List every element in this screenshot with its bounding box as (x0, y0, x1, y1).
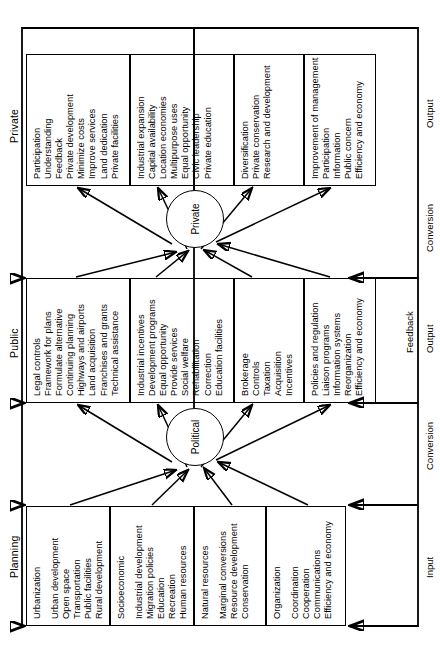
diagram-stage: Planning Public Private Urbanization Urb… (0, 0, 440, 648)
node-private: Private (166, 190, 224, 248)
node-label: Political (190, 420, 201, 454)
node-political: Political (166, 408, 224, 466)
diagram-rotated-canvas: Planning Public Private Urbanization Urb… (0, 0, 440, 648)
connector-arrows (0, 0, 440, 648)
diagram-canvas: Planning Public Private Urbanization Urb… (0, 0, 440, 648)
node-label: Private (190, 203, 201, 234)
